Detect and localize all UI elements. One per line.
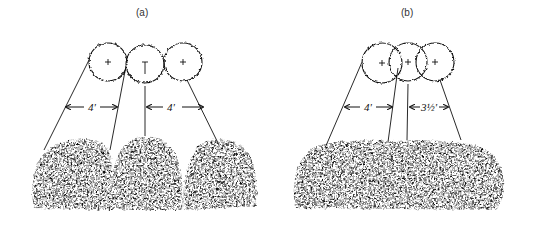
- panel-b: 4' 3½': [285, 43, 530, 213]
- panel-a-projection-lines: [44, 60, 219, 150]
- plus-mark: [105, 59, 111, 65]
- projection-line: [440, 80, 461, 140]
- plus-mark: [432, 59, 438, 65]
- panel-a-elevation-view: [33, 137, 257, 210]
- projection-line: [325, 62, 362, 148]
- plus-mark: [180, 59, 186, 65]
- shrub-mass: [184, 139, 257, 210]
- plus-mark: [379, 60, 385, 66]
- plus-mark: [405, 59, 411, 65]
- dimension-label: 4': [364, 101, 373, 113]
- projection-line: [44, 60, 89, 150]
- dimension-label: 4': [167, 101, 176, 113]
- dimension-label: 4': [88, 101, 97, 113]
- center-marks: [379, 59, 438, 66]
- panel-b-projection-lines: [325, 62, 461, 148]
- shrub-hedge-mass: [294, 141, 505, 210]
- center-marks: [105, 59, 186, 74]
- shrub-mass: [111, 137, 182, 210]
- dimension-label: 3½': [420, 101, 438, 113]
- panel-a-plan-view: [89, 43, 202, 83]
- plus-mark: [142, 62, 148, 74]
- projection-line: [187, 80, 219, 145]
- panel-b-elevation-view: [294, 141, 505, 210]
- panel-a: 4' 4': [26, 43, 266, 212]
- projection-line: [407, 84, 408, 140]
- diagram-canvas: 4' 4': [0, 0, 544, 227]
